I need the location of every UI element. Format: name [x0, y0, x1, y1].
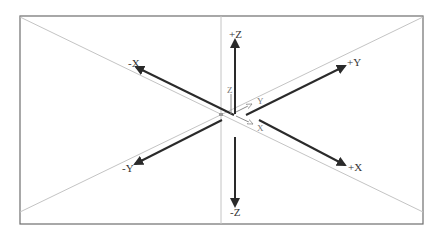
- local-axis-y: [236, 104, 252, 112]
- label-pos-z: +Z: [229, 28, 242, 40]
- arrow-pos-y: [246, 66, 345, 115]
- origin-marker: [219, 113, 223, 116]
- label-neg-x: -X: [128, 57, 140, 69]
- label-neg-y: -Y: [122, 162, 134, 174]
- arrow-neg-y: [135, 120, 222, 164]
- axis-diagram: +Z -Z -X +X +Y -Y Z Y X: [0, 0, 441, 238]
- label-local-y: Y: [257, 96, 264, 106]
- label-local-x: X: [257, 123, 264, 133]
- arrow-pos-x: [259, 120, 345, 165]
- label-pos-y: +Y: [347, 56, 361, 68]
- label-pos-x: +X: [348, 161, 362, 173]
- arrow-neg-x: [136, 67, 234, 115]
- label-neg-z: -Z: [230, 206, 241, 218]
- label-local-z: Z: [227, 85, 233, 95]
